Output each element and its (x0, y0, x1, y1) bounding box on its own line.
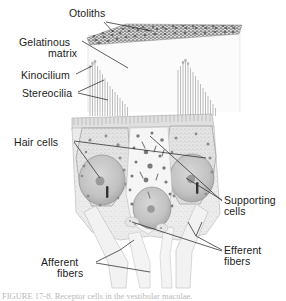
synapse-bar-left (106, 186, 108, 198)
label-efferent-fibers: fibers (224, 256, 250, 268)
nucleolus-supporting (147, 205, 155, 213)
figure-caption: FIGURE 17-8. Receptor cells in the vesti… (2, 292, 286, 301)
figure-container: Otoliths Gelatinous matrix Kinocilium St… (0, 0, 286, 301)
label-gelatinous-matrix: matrix (48, 48, 77, 60)
hair-cell-right (166, 126, 216, 204)
label-afferent-fibers: fibers (57, 268, 83, 280)
label-supporting-cells: cells (224, 206, 246, 218)
label-kinocilium: Kinocilium (21, 70, 70, 82)
synapse-bar-right (196, 182, 198, 194)
label-stereocilia: Stereocilia (22, 88, 72, 100)
label-hair-cells: Hair cells (14, 137, 58, 149)
label-otoliths: Otoliths (69, 8, 105, 20)
